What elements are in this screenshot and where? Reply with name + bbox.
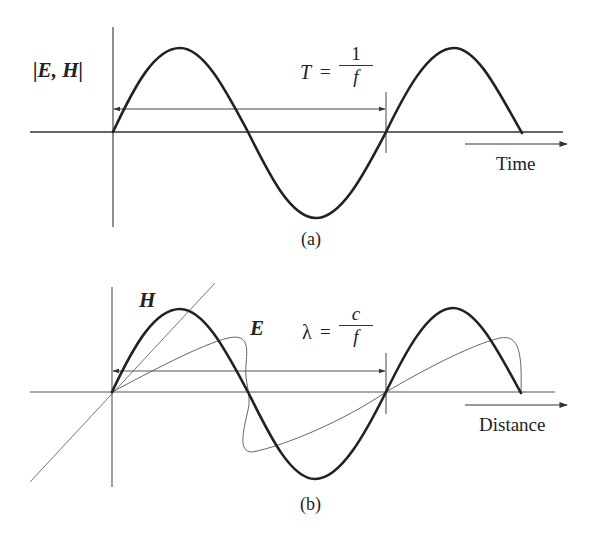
wavelength-fraction: c f [339, 304, 373, 347]
period-fraction: 1 f [339, 44, 373, 87]
wave-curve-a [113, 48, 522, 218]
period-equals: = [320, 61, 331, 83]
e-wave-curve [112, 337, 521, 452]
y-axis-label: |E, H| [33, 58, 83, 83]
h-wave-curve [112, 308, 521, 479]
time-axis-label: Time [496, 153, 535, 175]
e-wave-label: E [250, 316, 264, 341]
period-denominator: f [353, 67, 358, 87]
panel-b-caption: (b) [300, 494, 321, 515]
wavelength-equals: = [320, 321, 331, 343]
h-wave-label: H [139, 288, 155, 313]
panel-a-caption: (a) [301, 229, 321, 250]
period-symbol: T [300, 61, 311, 84]
perspective-axis [30, 283, 215, 482]
em-wave-diagram [0, 0, 597, 543]
wavelength-symbol: λ [302, 321, 312, 344]
panel-a [30, 27, 567, 227]
period-numerator: 1 [351, 44, 361, 64]
wavelength-denominator: f [353, 327, 358, 347]
distance-axis-label: Distance [479, 414, 545, 436]
wavelength-numerator: c [352, 304, 360, 324]
panel-b [30, 283, 567, 487]
